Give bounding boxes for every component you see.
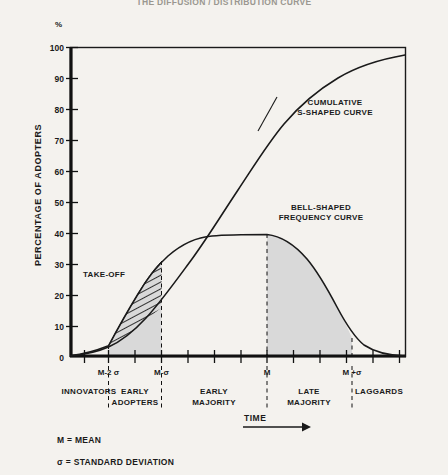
plot-frame <box>71 48 406 357</box>
x-tick-label-m: M <box>264 368 271 377</box>
category-label-innovators: INNOVATORS <box>61 386 116 397</box>
category-early-adopters-line2: ADOPTERS <box>112 398 159 407</box>
category-early-majority-line1: EARLY <box>200 387 228 396</box>
legend-sigma: σ = STANDARD DEVIATION <box>57 457 174 467</box>
time-axis-arrow <box>243 423 311 432</box>
x-tick-label-m-plus-sigma: M +σ <box>342 368 361 377</box>
category-label-late-majority: LATE MAJORITY <box>287 386 331 408</box>
category-laggards-line1: LAGGARDS <box>355 387 403 396</box>
x-tick-label-m-2sigma: M-2 σ <box>98 368 119 377</box>
annotation-bell-curve: BELL-SHAPED FREQUENCY CURVE <box>256 203 386 223</box>
annotation-cumulative-line1: CUMULATIVE <box>308 98 363 107</box>
cumulative-leader-line <box>258 97 277 131</box>
category-late-majority-line1: LATE <box>298 387 320 396</box>
annotation-takeoff: TAKE-OFF <box>83 270 125 279</box>
annotation-bell-line1: BELL-SHAPED <box>291 203 351 212</box>
category-early-adopters-line1: EARLY <box>121 387 149 396</box>
diffusion-curve-figure: THE DIFFUSION / DISTRIBUTION CURVE % PER… <box>0 0 448 475</box>
category-label-early-majority: EARLY MAJORITY <box>192 386 236 408</box>
x-tick-label-m-sigma: M-σ <box>154 368 169 377</box>
category-label-early-adopters: EARLY ADOPTERS <box>112 386 159 408</box>
shade-late-majority <box>267 235 352 357</box>
legend-mean: M = MEAN <box>57 435 101 445</box>
annotation-cumulative-line2: S-SHAPED CURVE <box>297 108 373 117</box>
x-axis-title: TIME <box>244 413 266 423</box>
category-late-majority-line2: MAJORITY <box>287 398 331 407</box>
category-early-majority-line2: MAJORITY <box>192 398 236 407</box>
annotation-cumulative-curve: CUMULATIVE S-SHAPED CURVE <box>276 98 394 118</box>
category-label-laggards: LAGGARDS <box>355 386 403 397</box>
category-innovators-line1: INNOVATORS <box>61 387 116 396</box>
annotation-bell-line2: FREQUENCY CURVE <box>279 213 364 222</box>
